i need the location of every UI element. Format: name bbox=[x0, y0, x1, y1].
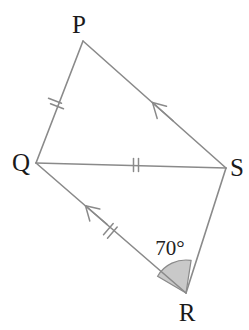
vertex-label-r: R bbox=[179, 300, 196, 325]
vertex-label-s: S bbox=[230, 155, 244, 180]
segment-rs bbox=[186, 168, 226, 293]
segment-qr bbox=[36, 163, 186, 293]
arrow-ps bbox=[153, 103, 174, 121]
vertex-label-p: P bbox=[72, 12, 86, 37]
vertex-label-q: Q bbox=[12, 150, 30, 175]
angle-label-r: 70° bbox=[155, 238, 184, 259]
geometry-figure: P Q R S 70° bbox=[0, 0, 249, 330]
tick-marks-pq bbox=[49, 98, 64, 108]
segment-qs bbox=[36, 163, 226, 168]
arrow-qr bbox=[86, 206, 108, 225]
geometry-canvas bbox=[0, 0, 249, 330]
angle-sector-R bbox=[158, 260, 192, 293]
